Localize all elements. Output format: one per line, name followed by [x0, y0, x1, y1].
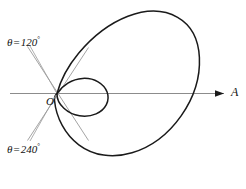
theta-120-equals: = [12, 36, 20, 48]
origin-label: O [46, 96, 54, 107]
polar-curve-figure: θ=120° θ=240° O A [0, 0, 246, 189]
theta-240-degree: ° [37, 142, 40, 150]
theta-120-label: θ=120° [7, 36, 40, 48]
theta-120-degree: ° [37, 35, 40, 43]
theta-240-value: 240 [21, 143, 38, 155]
axis-endpoint-label: A [231, 86, 238, 98]
polar-axis-arrowhead [215, 90, 224, 97]
curve-canvas [0, 0, 246, 189]
leader-line-120 [30, 46, 56, 92]
theta-120-value: 120 [21, 36, 38, 48]
limacon-outer-curve [54, 11, 199, 156]
theta-240-equals: = [12, 143, 20, 155]
theta-240-label: θ=240° [7, 143, 40, 155]
